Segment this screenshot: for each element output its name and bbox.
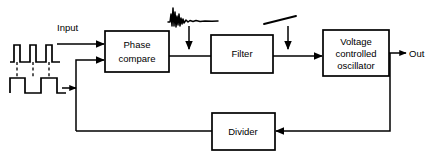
block-filter[interactable]: Filter xyxy=(211,35,273,73)
input-label: Input xyxy=(57,22,78,33)
phase-compare-label-line2: compare xyxy=(119,53,156,64)
feedback-to-phase-compare-line xyxy=(76,60,104,131)
input-pulse-waveform xyxy=(10,45,60,62)
output-label: Out xyxy=(409,48,425,59)
block-diagram: Input Phase compare Filter Voltage contr… xyxy=(0,0,431,162)
divider-label: Divider xyxy=(228,126,258,137)
block-phase-compare[interactable]: Phase compare xyxy=(105,31,169,72)
phase-compare-label-line1: Phase xyxy=(124,39,151,50)
waveform-alignment-dashes xyxy=(17,62,49,78)
filter-label: Filter xyxy=(231,48,252,59)
vco-label-line3: oscillator xyxy=(337,60,375,71)
diagram-canvas: Input Phase compare Filter Voltage contr… xyxy=(0,0,431,162)
input-square-waveform xyxy=(10,78,66,93)
vco-label-line1: Voltage xyxy=(340,36,372,47)
block-divider[interactable]: Divider xyxy=(212,113,275,150)
noise-waveform xyxy=(168,8,218,27)
block-vco[interactable]: Voltage controlled oscillator xyxy=(323,30,389,76)
vco-label-line2: controlled xyxy=(335,48,376,59)
drift-waveform xyxy=(264,16,296,24)
